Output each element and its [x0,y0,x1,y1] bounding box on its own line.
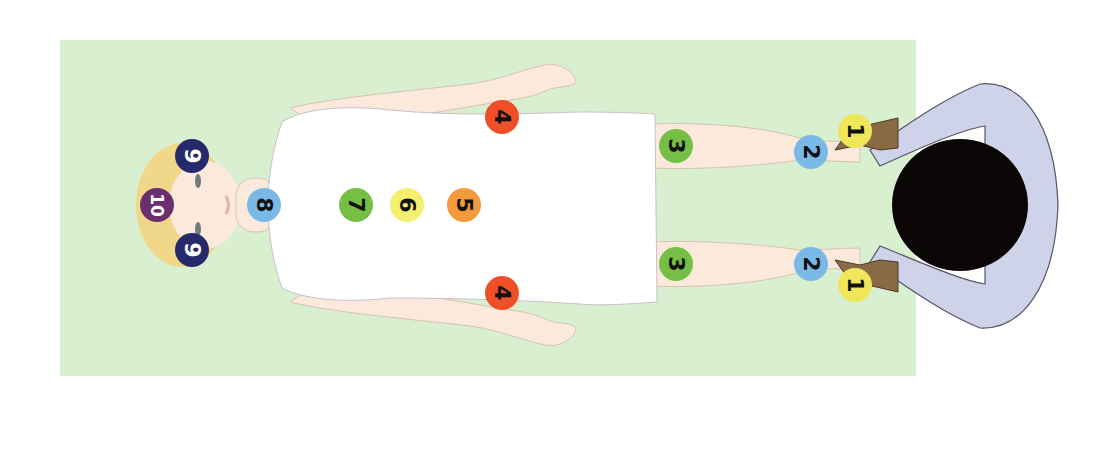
position-10-crown-marker: 10 [140,188,174,222]
position-2-left-ankle-marker: 2 [794,135,828,169]
position-8-throat-marker: 8 [247,188,281,222]
marker-label: 4 [490,109,515,124]
marker-label: 9 [180,242,205,257]
hand-positions-diagram: 1122334456789910 [0,0,1110,459]
marker-label: 1 [843,277,868,292]
marker-label: 7 [344,197,369,212]
position-1-left-foot-marker: 1 [838,114,872,148]
marker-label: 4 [490,285,515,300]
position-9-right-temple-marker: 9 [175,233,209,267]
marker-label: 10 [147,193,167,217]
marker-label: 8 [252,197,277,212]
position-1-right-foot-marker: 1 [838,268,872,302]
marker-label: 1 [843,123,868,138]
position-5-abdomen-marker: 5 [447,188,481,222]
position-7-heart-marker: 7 [339,188,373,222]
practitioner-hair [892,139,1028,271]
marker-label: 9 [180,148,205,163]
position-4-left-hand-marker: 4 [485,100,519,134]
position-2-right-ankle-marker: 2 [794,247,828,281]
position-6-solar-plexus-marker: 6 [390,188,424,222]
position-4-right-hand-marker: 4 [485,276,519,310]
position-3-left-knee-marker: 3 [659,129,693,163]
client-face [169,161,241,249]
marker-label: 2 [799,144,824,159]
client-eye-left [195,174,201,188]
position-3-right-knee-marker: 3 [659,247,693,281]
marker-label: 2 [799,256,824,271]
marker-label: 6 [395,197,420,212]
marker-label: 3 [664,256,689,271]
marker-label: 3 [664,138,689,153]
position-9-left-temple-marker: 9 [175,139,209,173]
marker-label: 5 [452,197,477,212]
